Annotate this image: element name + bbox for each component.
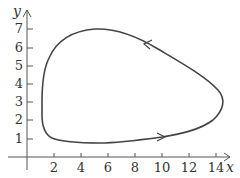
x-tick-label: 8 [131,160,139,175]
phase-plot: 2 4 6 8 10 12 14 x 1 2 3 4 5 6 7 y [0,0,240,178]
x-tick-label: 4 [77,160,85,175]
y-tick-label: 7 [15,21,23,36]
x-tick-label: 10 [154,160,171,175]
y-ticks [27,29,33,139]
x-tick-label: 12 [181,160,198,175]
y-axis [23,10,31,170]
y-axis-label: y [12,3,22,19]
x-ticks [54,153,216,157]
x-tick-label: 2 [50,160,58,175]
x-tick-labels: 2 4 6 8 10 12 14 x [50,159,234,175]
y-tick-label: 2 [15,112,23,127]
y-tick-labels: 1 2 3 4 5 6 7 y [12,3,23,146]
y-tick-label: 4 [15,76,23,91]
trajectory-curve [42,29,223,143]
y-tick-label: 5 [15,58,23,73]
y-tick-label: 1 [15,131,23,146]
x-tick-label: 6 [104,160,112,175]
y-tick-label: 6 [15,40,23,55]
x-tick-label: 14 [208,160,225,175]
x-axis-label: x [226,159,234,175]
y-tick-label: 3 [15,94,23,109]
